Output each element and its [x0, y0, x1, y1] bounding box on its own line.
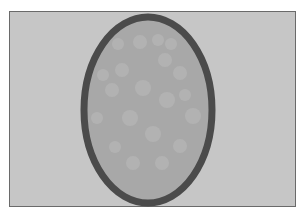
spot — [155, 156, 169, 170]
spot — [122, 110, 138, 126]
spot — [91, 112, 103, 124]
spot — [165, 38, 177, 50]
spot — [133, 35, 147, 49]
spot — [97, 69, 109, 81]
spot — [152, 34, 164, 46]
spot — [135, 80, 151, 96]
spot — [109, 141, 121, 153]
spot — [159, 92, 175, 108]
spot — [158, 53, 172, 67]
spot — [105, 83, 119, 97]
spot — [126, 156, 140, 170]
spot — [173, 66, 187, 80]
oval-illustration — [0, 0, 307, 221]
spot — [185, 108, 201, 124]
spot — [179, 89, 191, 101]
spot — [115, 63, 129, 77]
spot — [145, 126, 161, 142]
spot — [112, 38, 124, 50]
spot — [173, 139, 187, 153]
